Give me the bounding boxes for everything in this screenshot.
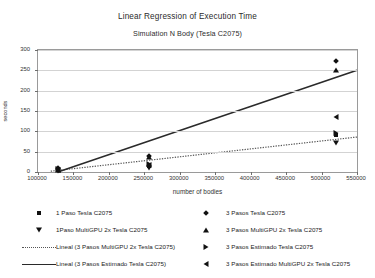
legend-marker-triangle-right xyxy=(204,244,209,250)
legend-item[interactable]: 3 Pasos Estimado MultiGPU 2x Tesla C2075 xyxy=(200,255,360,272)
x-tick-label: 100000 xyxy=(27,175,47,181)
legend-label: 3 Pasos Tesla C2075 xyxy=(226,209,285,216)
legend-column-right: 3 Pasos Tesla C20753 Pasos MultiGPU 2x T… xyxy=(200,204,360,272)
data-point-triangle-left xyxy=(333,114,338,120)
y-tick-mark xyxy=(35,131,38,132)
legend-label: Lineal (3 Pasos Estimado Tesla C2075) xyxy=(56,260,166,267)
legend-marker-triangle-up xyxy=(203,227,209,232)
legend-column-left: 1 Paso Tesla C20751Paso MultiGPU 2x Tesl… xyxy=(22,204,197,272)
legend-marker-triangle-left xyxy=(204,261,209,267)
x-axis-title: number of bodies xyxy=(37,188,358,195)
legend-marker-square xyxy=(37,211,41,215)
legend-item[interactable]: Lineal (3 Pasos MultiGPU 2x Tesla C2075) xyxy=(22,238,197,255)
y-tick-label: 300 xyxy=(20,46,30,52)
solid-line xyxy=(22,264,56,265)
legend-key xyxy=(22,258,56,270)
y-tick-label: 150 xyxy=(20,107,30,113)
legend-item[interactable]: 3 Pasos MultiGPU 2x Tesla C2075 xyxy=(200,221,360,238)
legend-item[interactable]: 1Paso MultiGPU 2x Tesla C2075 xyxy=(22,221,197,238)
grid-line xyxy=(38,91,357,92)
grid-line xyxy=(38,131,357,132)
trendline xyxy=(51,137,357,171)
data-point-triangle-left xyxy=(55,167,60,173)
legend-key xyxy=(200,258,226,270)
grid-line xyxy=(38,70,357,71)
x-tick-label: 550000 xyxy=(346,175,366,181)
x-tick-label: 350000 xyxy=(204,175,224,181)
legend-item[interactable]: 3 Pasos Tesla C2075 xyxy=(200,204,360,221)
dotted-line xyxy=(22,247,56,248)
legend-marker-triangle-down xyxy=(36,227,42,232)
legend-item[interactable]: 3 Pasos Estimado Tesla C2075 xyxy=(200,238,360,255)
y-tick-label: 100 xyxy=(20,127,30,133)
legend-item[interactable]: 1 Paso Tesla C2075 xyxy=(22,204,197,221)
chart-title: Linear Regression of Execution Time xyxy=(0,12,375,21)
chart-container: Linear Regression of Execution Time Simu… xyxy=(0,0,375,278)
x-tick-label: 250000 xyxy=(133,175,153,181)
y-tick-mark xyxy=(35,91,38,92)
x-tick-label: 450000 xyxy=(275,175,295,181)
data-point-triangle-right xyxy=(333,130,338,136)
y-tick-mark xyxy=(35,111,38,112)
data-point-triangle-left xyxy=(146,162,151,168)
y-tick-label: 200 xyxy=(20,87,30,93)
x-tick-label: 200000 xyxy=(98,175,118,181)
data-point-triangle-down xyxy=(333,140,339,145)
legend-key xyxy=(200,224,226,236)
legend-key xyxy=(200,241,226,253)
chart-legend: 1 Paso Tesla C20751Paso MultiGPU 2x Tesl… xyxy=(22,204,360,272)
y-tick-label: 50 xyxy=(23,148,30,154)
x-axis-tick-labels: 1000001500002000002500003000003500004000… xyxy=(37,175,358,187)
x-tick-label: 400000 xyxy=(240,175,260,181)
x-tick-label: 500000 xyxy=(311,175,331,181)
y-tick-mark xyxy=(35,152,38,153)
data-point-triangle-up xyxy=(333,67,339,72)
y-axis-tick-labels: 050100150200250300 xyxy=(0,49,35,173)
legend-label: 3 Pasos MultiGPU 2x Tesla C2075 xyxy=(226,226,322,233)
grid-line xyxy=(38,50,357,51)
legend-key xyxy=(22,224,56,236)
legend-marker-diamond xyxy=(203,210,209,216)
chart-subtitle: Simulation N Body (Tesla C2075) xyxy=(0,29,375,38)
grid-line xyxy=(38,152,357,153)
legend-label: 3 Pasos Estimado MultiGPU 2x Tesla C2075 xyxy=(226,260,350,267)
legend-key xyxy=(22,241,56,253)
trendline xyxy=(58,70,357,172)
legend-key xyxy=(200,207,226,219)
legend-key xyxy=(22,207,56,219)
x-tick-label: 300000 xyxy=(169,175,189,181)
y-tick-label: 0 xyxy=(27,168,30,174)
legend-label: 1 Paso Tesla C2075 xyxy=(56,209,112,216)
legend-item[interactable]: Lineal (3 Pasos Estimado Tesla C2075) xyxy=(22,255,197,272)
y-tick-mark xyxy=(35,70,38,71)
y-tick-mark xyxy=(35,50,38,51)
data-point-triangle-up xyxy=(146,155,152,160)
y-tick-label: 250 xyxy=(20,66,30,72)
legend-label: 3 Pasos Estimado Tesla C2075 xyxy=(226,243,313,250)
grid-line xyxy=(38,111,357,112)
plot-area xyxy=(37,49,358,173)
x-tick-label: 150000 xyxy=(63,175,83,181)
legend-label: Lineal (3 Pasos MultiGPU 2x Tesla C2075) xyxy=(56,243,175,250)
legend-label: 1Paso MultiGPU 2x Tesla C2075 xyxy=(56,226,147,233)
